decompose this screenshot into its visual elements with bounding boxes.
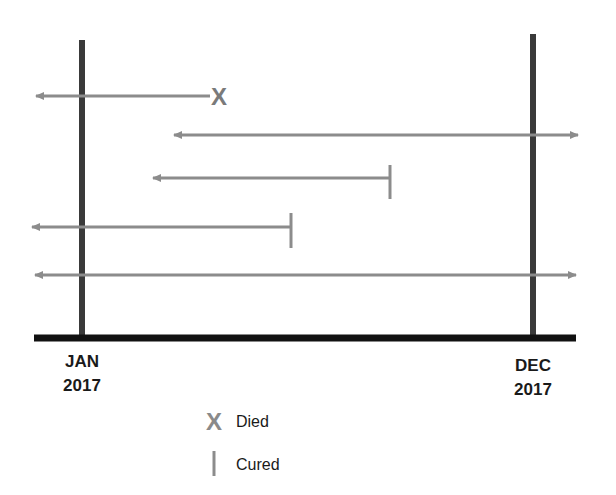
period-start-label: JAN 2017: [52, 350, 112, 398]
patient-line-3: [153, 165, 390, 199]
patient-line-1: X: [36, 83, 227, 110]
legend-died-label: Died: [236, 413, 269, 431]
legend-died-icon: X: [202, 410, 226, 434]
period-end-year: 2017: [503, 378, 563, 402]
legend-cured-symbol-space: |: [202, 453, 226, 477]
patient-timeline-diagram: X: [0, 0, 616, 495]
period-start-year: 2017: [52, 374, 112, 398]
legend-cured-label: Cured: [236, 456, 280, 474]
legend-item-died: X Died: [202, 410, 269, 434]
legend-item-cured: | Cured: [202, 453, 280, 477]
patient-line-4: [32, 213, 291, 248]
period-end-label: DEC 2017: [503, 354, 563, 402]
died-marker-icon: X: [211, 83, 227, 110]
period-start-month: JAN: [52, 350, 112, 374]
period-end-month: DEC: [503, 354, 563, 378]
